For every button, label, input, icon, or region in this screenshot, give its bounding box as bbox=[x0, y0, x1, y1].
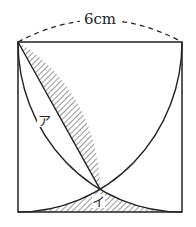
geometry-figure: 6cm ア イ bbox=[0, 0, 196, 227]
diagonal-segment bbox=[18, 42, 100, 189]
dimension-label: 6cm bbox=[84, 10, 116, 28]
region-label-a: ア bbox=[38, 113, 51, 128]
region-label-i: イ bbox=[92, 194, 105, 209]
